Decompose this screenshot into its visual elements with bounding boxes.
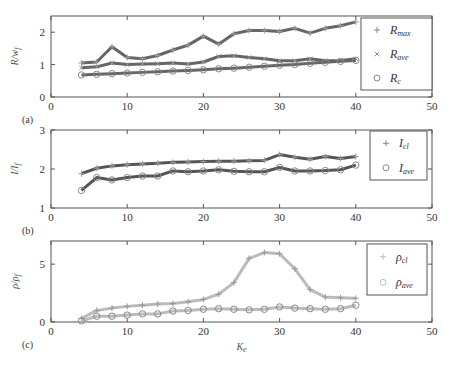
panel-b-chart: 01020304050123I/If(b)IclIave xyxy=(9,124,438,237)
legend: RmaxRaveRc xyxy=(361,18,432,90)
y-axis-label: ρ/ρf xyxy=(9,272,22,289)
legend: ρclρave xyxy=(367,244,427,295)
x-tick-label: 30 xyxy=(274,100,286,112)
panel-label: (a) xyxy=(22,114,33,126)
x-tick-label: 50 xyxy=(427,211,439,223)
y-tick-label: 5 xyxy=(40,258,46,270)
y-tick-label: 2 xyxy=(40,26,46,38)
y-axis-label: I/If xyxy=(9,161,22,175)
y-tick-label: 0 xyxy=(40,91,46,103)
panel-label: (c) xyxy=(22,339,33,351)
x-axis-label: Ke xyxy=(235,341,247,354)
y-tick-label: 2 xyxy=(40,163,46,175)
x-tick-label: 10 xyxy=(122,325,134,337)
panel-label: (b) xyxy=(22,225,34,237)
figure: 01020304050012R/wf(a)RmaxRaveRc 01020304… xyxy=(0,0,452,369)
x-tick-label: 40 xyxy=(350,325,362,337)
panel-a-chart: 01020304050012R/wf(a)RmaxRaveRc xyxy=(9,16,438,126)
x-tick-label: 30 xyxy=(274,211,286,223)
x-tick-label: 40 xyxy=(350,100,362,112)
x-tick-label: 0 xyxy=(48,100,54,112)
y-tick-label: 1 xyxy=(40,59,46,71)
x-tick-label: 30 xyxy=(274,325,286,337)
x-tick-label: 20 xyxy=(198,211,210,223)
x-tick-label: 0 xyxy=(48,325,54,337)
panel-c-chart: 0102030405005ρ/ρf(c)Keρclρave xyxy=(9,241,438,354)
y-axis-label: R/wf xyxy=(9,46,22,67)
y-tick-label: 3 xyxy=(40,124,46,136)
x-tick-label: 50 xyxy=(427,325,439,337)
x-tick-label: 10 xyxy=(122,211,134,223)
y-tick-label: 1 xyxy=(40,202,46,214)
legend: IclIave xyxy=(370,131,427,180)
x-tick-label: 0 xyxy=(48,211,54,223)
x-tick-label: 20 xyxy=(198,100,210,112)
y-tick-label: 0 xyxy=(40,316,46,328)
x-tick-label: 50 xyxy=(427,100,439,112)
x-tick-label: 10 xyxy=(122,100,134,112)
x-tick-label: 20 xyxy=(198,325,210,337)
x-tick-label: 40 xyxy=(350,211,362,223)
